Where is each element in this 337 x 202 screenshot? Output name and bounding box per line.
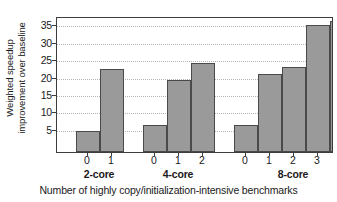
- y-tickmark-5: [52, 130, 56, 131]
- x-axis-tick-labels: 0 1 0 1 2 0 1 2 3 4: [56, 154, 333, 168]
- y-tick-label: 20: [30, 72, 52, 83]
- group-label-8core: 8-core: [278, 168, 308, 180]
- y-tick-label: 25: [30, 55, 52, 66]
- x-tick-label-2core-1: 1: [108, 154, 114, 166]
- y-tick-label: 10: [30, 107, 52, 118]
- x-tick-label-8core-1: 1: [266, 154, 272, 166]
- y-tickmark-30: [52, 43, 56, 44]
- y-axis-tick-labels: 35 30 25 20 15 10 5: [28, 0, 52, 202]
- x-tick-label-8core-3: 3: [314, 154, 320, 166]
- group-label-2core: 2-core: [84, 168, 114, 180]
- x-tick-label-4core-1: 1: [175, 154, 181, 166]
- y-tickmark-15: [52, 95, 56, 96]
- y-axis-title-line-2: improvement over baseline: [15, 22, 27, 134]
- y-tickmark-35: [52, 25, 56, 26]
- x-tick-label-4core-0: 0: [151, 154, 157, 166]
- y-tick-label: 35: [30, 20, 52, 31]
- bar-chart-figure: Weighted speedup improvement over baseli…: [0, 0, 337, 202]
- group-label-4core: 4-core: [163, 168, 193, 180]
- y-tickmark-25: [52, 60, 56, 61]
- x-tick-label-8core-0: 0: [242, 154, 248, 166]
- x-tick-label-8core-2: 2: [290, 154, 296, 166]
- x-axis-title: Number of highly copy/initialization-int…: [0, 184, 337, 197]
- y-axis-title: Weighted speedup improvement over baseli…: [0, 0, 30, 155]
- y-tick-label: 5: [30, 124, 52, 135]
- x-tick-label-2core-0: 0: [84, 154, 90, 166]
- y-tick-label: 15: [30, 90, 52, 101]
- y-axis-title-line-1: Weighted speedup: [4, 22, 16, 134]
- y-tickmark-10: [52, 112, 56, 113]
- y-axis-tick-marks: [56, 17, 333, 153]
- y-tickmark-20: [52, 78, 56, 79]
- x-tick-label-4core-2: 2: [199, 154, 205, 166]
- y-tick-label: 30: [30, 37, 52, 48]
- x-axis-group-labels: 2-core 4-core 8-core: [56, 168, 333, 182]
